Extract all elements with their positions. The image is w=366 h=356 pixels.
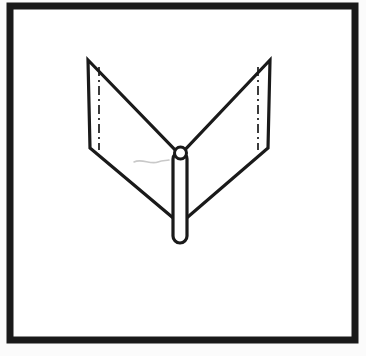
figure-root: V-shaped pair of flat panels joined at a… <box>0 0 366 356</box>
technical-drawing-canvas <box>0 0 366 356</box>
hinge-pin <box>173 152 187 243</box>
pin-cap-circle <box>175 147 187 159</box>
